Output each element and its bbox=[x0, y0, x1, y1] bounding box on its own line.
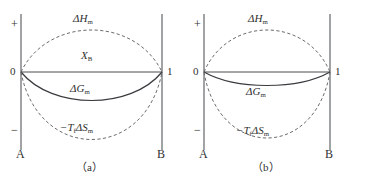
origin-label-a: 0 bbox=[10, 66, 16, 77]
corner-label-b-right: B bbox=[325, 148, 333, 160]
composition-label-a: XB bbox=[81, 50, 92, 61]
caption-b: （b） bbox=[252, 162, 280, 173]
gibbs-curve-b bbox=[204, 72, 330, 86]
gibbs-label-b: ΔGm bbox=[246, 86, 266, 97]
corner-label-b-left: A bbox=[199, 148, 208, 160]
caption-a: （a） bbox=[76, 162, 103, 173]
y-axis-minus-sign-b: − bbox=[194, 124, 201, 136]
right-axis-label-b: 1 bbox=[335, 66, 341, 77]
gibbs-label-a: ΔGm bbox=[70, 83, 90, 94]
origin-label-b: 0 bbox=[193, 66, 199, 77]
entropy-label-a: −TfΔSm bbox=[60, 122, 93, 133]
y-axis-minus-sign-a: − bbox=[11, 124, 18, 136]
corner-label-a-left: A bbox=[16, 148, 25, 160]
panel-a: + − 0 1 A B ΔHm XB ΔGm −TfΔSm （a） bbox=[0, 0, 183, 179]
entropy-label-b: −TfΔSm bbox=[236, 125, 269, 136]
gibbs-curve-a bbox=[21, 72, 162, 101]
panel-a-plot bbox=[0, 0, 183, 179]
enthalpy-curve-b bbox=[204, 30, 330, 72]
y-axis-plus-sign-a: + bbox=[11, 18, 18, 30]
right-axis-label-a: 1 bbox=[167, 66, 173, 77]
y-axis-plus-sign-b: + bbox=[194, 18, 201, 30]
enthalpy-label-b: ΔHm bbox=[248, 13, 268, 24]
enthalpy-label-a: ΔHm bbox=[73, 13, 93, 24]
corner-label-a-right: B bbox=[157, 148, 165, 160]
panel-b: + − 0 1 A B ΔHm ΔGm −TfΔSm （b） bbox=[184, 0, 367, 179]
figure-root: + − 0 1 A B ΔHm XB ΔGm −TfΔSm （a） + − bbox=[0, 0, 367, 179]
panel-b-plot bbox=[184, 0, 367, 179]
